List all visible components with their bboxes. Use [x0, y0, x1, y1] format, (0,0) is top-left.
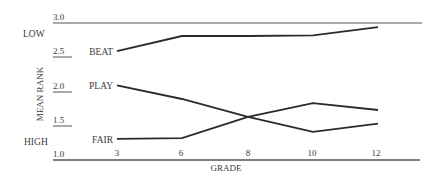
x-tick-10: 10 — [308, 148, 318, 158]
y-tick-1-0: 1.0 — [53, 149, 65, 159]
y-tick-2-5: 2.5 — [53, 46, 65, 56]
series-label-play: PLAY — [89, 81, 113, 91]
y-tick-3-0: 3.0 — [53, 12, 65, 22]
y-tick-labels: 3.0 2.5 2.0 1.5 1.0 — [53, 12, 65, 159]
x-axis-title: GRADE — [211, 163, 243, 173]
series-line-fair — [117, 103, 378, 139]
x-tick-6: 6 — [179, 148, 184, 158]
x-tick-3: 3 — [115, 148, 120, 158]
mean-rank-line-chart: 3.0 2.5 2.0 1.5 1.0 LOW HIGH MEAN RANK 3… — [0, 0, 443, 176]
x-tick-12: 12 — [372, 148, 381, 158]
y-annotation-high: HIGH — [24, 137, 48, 147]
series-label-fair: FAIR — [92, 135, 114, 145]
x-tick-labels: 3 6 8 10 12 — [115, 148, 381, 158]
series-line-beat — [117, 27, 378, 51]
y-tick-2-0: 2.0 — [53, 81, 65, 91]
x-tick-8: 8 — [246, 148, 251, 158]
series-line-play — [117, 85, 378, 132]
y-annotation-low: LOW — [23, 29, 45, 39]
y-axis-title: MEAN RANK — [35, 66, 45, 121]
y-tick-1-5: 1.5 — [53, 115, 65, 125]
series-label-beat: BEAT — [89, 47, 113, 57]
